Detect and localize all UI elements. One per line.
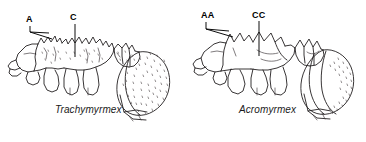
species-label-acromyrmex: Acromyrmex (239, 104, 296, 115)
callout-label-c: C (70, 13, 77, 22)
acromyrmex-line-art (183, 0, 366, 142)
ant-comparison-figure: A C Trachymyrmex (0, 0, 366, 142)
gaster (301, 50, 354, 120)
legs-coxae (213, 67, 287, 95)
callout-label-cc: CC (252, 11, 265, 20)
mesonotum-propodeum (251, 32, 295, 70)
callout-label-a: A (26, 15, 33, 24)
head-outline (8, 44, 38, 76)
gaster (117, 52, 170, 121)
panel-trachymyrmex: A C Trachymyrmex (0, 0, 183, 142)
callout-label-aa: AA (201, 11, 214, 20)
gaster-posterior-tubercles (329, 58, 352, 114)
petiole-nodes (114, 43, 140, 67)
legs-coxae (26, 68, 99, 95)
leader-line-a (30, 26, 52, 39)
leader-line-aa (206, 22, 233, 37)
pronotum-spines (221, 33, 253, 71)
panel-acromyrmex: AA CC Acromyrmex (183, 0, 366, 142)
species-label-trachymyrmex: Trachymyrmex (55, 104, 122, 115)
